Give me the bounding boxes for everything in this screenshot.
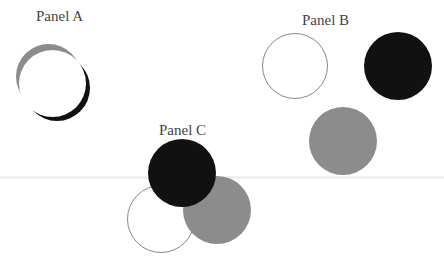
panel-c-black-circle	[148, 139, 216, 207]
panel-c-label: Panel C	[159, 122, 206, 139]
panel-b-label: Panel B	[302, 12, 349, 29]
panel-a-label: Panel A	[36, 8, 83, 25]
panel-b-black-circle	[364, 32, 432, 100]
panel-b-gray-circle	[309, 107, 377, 175]
panel-b-white-circle	[262, 33, 328, 99]
panel-a-white-circle	[19, 50, 86, 117]
